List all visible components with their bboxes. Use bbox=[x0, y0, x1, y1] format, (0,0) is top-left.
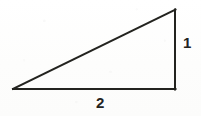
triangle-hypotenuse-line bbox=[13, 10, 176, 90]
vertical-side-label: 1 bbox=[183, 35, 191, 50]
base-side-label: 2 bbox=[96, 95, 104, 110]
right-triangle-figure: 1 2 bbox=[0, 0, 201, 116]
